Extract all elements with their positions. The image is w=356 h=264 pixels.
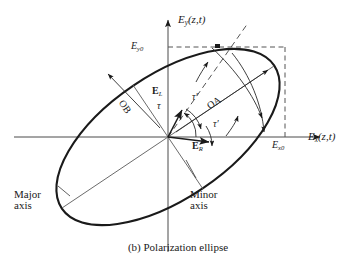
tau-prime-upper-label: τ′ — [192, 92, 198, 102]
major-axis-callout-line2: axis — [14, 200, 41, 211]
ex0-sub: x0 — [278, 144, 284, 151]
ey0-sub: y0 — [137, 45, 143, 52]
e-left-label: EL — [152, 86, 162, 97]
e-right-label: ER — [192, 141, 203, 152]
x-axis-label-arg: (z,t) — [318, 130, 335, 142]
tau-prime-lower-label: τ′ — [213, 119, 219, 129]
minor-axis-callout-line2: axis — [190, 200, 218, 211]
minor-axis-leader — [186, 160, 196, 178]
rotation-tick-lower — [226, 116, 238, 136]
tau-prime-lower-arc — [206, 126, 212, 146]
e-right-sub: R — [199, 145, 203, 152]
y-axis-label: Ey(z,t) — [178, 14, 205, 27]
x-axis-label-main: E — [308, 130, 315, 142]
polarization-ellipse-figure: Ey(z,t) Ex(z,t) Ey0 Ex0 EL ER OA OB τ τ′… — [0, 0, 356, 264]
x-axis-label: Ex(z,t) — [308, 131, 335, 144]
rotation-tick-upper — [196, 62, 208, 82]
e-left-vector — [168, 110, 182, 137]
ey0-amplitude-label: Ey0 — [131, 41, 143, 52]
rotation-arrow-lower — [212, 48, 262, 118]
e-right-main: E — [192, 140, 199, 151]
major-axis-leader — [58, 186, 70, 196]
ellipse-apex-point — [215, 44, 220, 48]
e-right-vector — [168, 137, 209, 142]
figure-caption: (b) Polarization ellipse — [0, 241, 356, 253]
tau-angle-label: τ — [157, 101, 161, 111]
major-axis-callout: Major axis — [14, 189, 41, 211]
tau-prime-upper-arc — [186, 109, 201, 129]
y-axis-label-main: E — [178, 13, 185, 25]
ex0-amplitude-label: Ex0 — [272, 140, 284, 151]
ellipse-diagram-canvas — [0, 0, 356, 264]
semi-minor-ob-arrow — [108, 74, 160, 128]
minor-axis-callout: Minor axis — [190, 189, 218, 211]
e-left-main: E — [152, 85, 159, 96]
rotation-arrow-upper — [232, 53, 264, 132]
y-axis-label-arg: (z,t) — [188, 13, 205, 25]
e-left-sub: L — [159, 90, 163, 97]
